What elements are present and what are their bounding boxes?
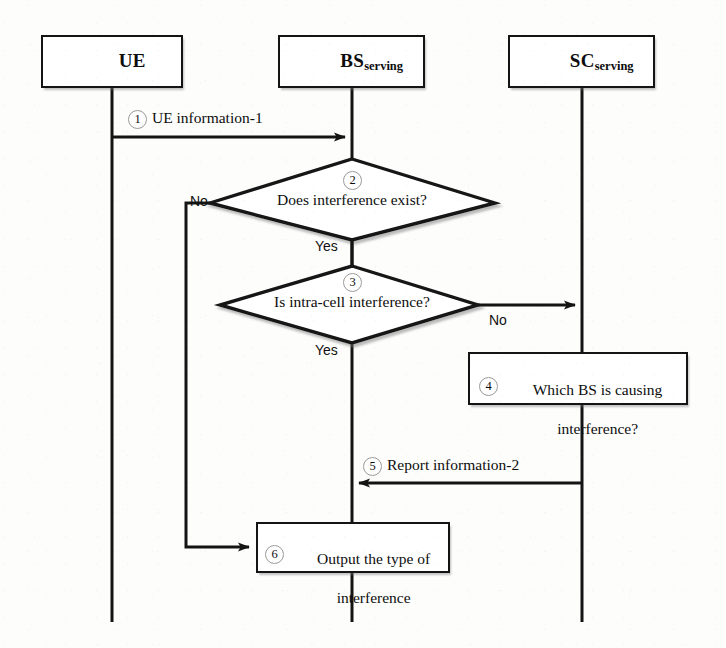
- decision-3-yes-label: Yes: [315, 343, 338, 358]
- decision-2-yes-label: Yes: [315, 239, 338, 254]
- process-box-6-line2: interference: [337, 589, 411, 606]
- decision-2-no-label: No: [190, 194, 208, 209]
- actor-subscript-bs: serving: [364, 60, 403, 74]
- step-badge-6: 6: [265, 545, 284, 564]
- process-box-4-text: Which BS is causing interference?: [470, 360, 686, 459]
- step-badge-5: 5: [363, 457, 382, 476]
- message-label-1: UE information-1: [152, 110, 263, 126]
- actor-box-ue: UE: [41, 35, 183, 88]
- actor-label-sc: SCserving: [510, 32, 653, 92]
- process-box-4-line1: Which BS is causing: [533, 381, 663, 398]
- step-badge-3: 3: [343, 273, 362, 292]
- process-box-4-line2: interference?: [557, 420, 638, 437]
- message-label-5: Report information-2: [387, 457, 519, 473]
- decision-label-3: Is intra-cell interference?: [237, 294, 467, 310]
- process-box-6-text: Output the type of interference: [258, 529, 448, 628]
- step-badge-4: 4: [479, 377, 498, 396]
- flowchart-figure: UE BSserving SCserving 1 UE information-…: [0, 0, 726, 648]
- process-box-6: Output the type of interference: [256, 522, 450, 573]
- process-box-6-line1: Output the type of: [317, 550, 430, 567]
- decision-3-no-label: No: [489, 313, 507, 328]
- actor-box-bs: BSserving: [278, 35, 425, 88]
- actor-box-sc: SCserving: [508, 35, 655, 88]
- step-badge-2: 2: [343, 171, 362, 190]
- actor-subscript-sc: serving: [595, 60, 634, 74]
- actor-label-ue: UE: [43, 32, 181, 92]
- actor-label-bs: BSserving: [280, 32, 423, 92]
- decision-label-2: Does interference exist?: [236, 192, 468, 208]
- no-bypass-path: [186, 203, 249, 547]
- step-badge-1: 1: [128, 110, 147, 129]
- process-box-4: Which BS is causing interference?: [468, 352, 688, 405]
